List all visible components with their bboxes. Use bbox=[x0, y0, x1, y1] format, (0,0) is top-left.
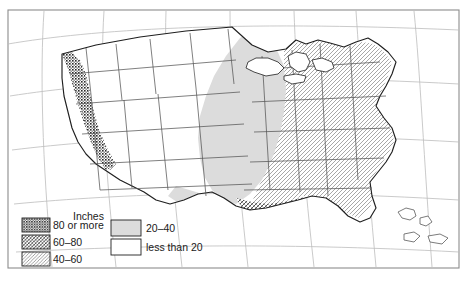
legend-label-60-80: 60–80 bbox=[53, 236, 82, 248]
legend-label-80-or-more: 80 or more bbox=[53, 219, 104, 231]
map-canvas: Inches 80 or more 60–80 40–60 20–40 less… bbox=[0, 0, 467, 284]
legend-label-less-than-20: less than 20 bbox=[146, 241, 203, 253]
legend-swatch-40-60 bbox=[22, 252, 50, 266]
legend-swatch-20-40 bbox=[111, 220, 141, 236]
legend-label-20-40: 20–40 bbox=[146, 222, 175, 234]
legend-swatch-80-or-more bbox=[22, 218, 50, 232]
legend-swatch-60-80 bbox=[22, 235, 50, 249]
legend-swatch-less-than-20 bbox=[111, 239, 141, 255]
precipitation-map-figure: Inches 80 or more 60–80 40–60 20–40 less… bbox=[0, 0, 467, 284]
legend-label-40-60: 40–60 bbox=[53, 253, 82, 265]
